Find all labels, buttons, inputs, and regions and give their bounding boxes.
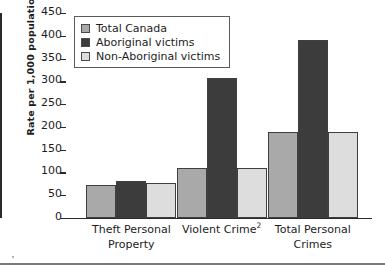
legend-item: Aboriginal victims <box>81 35 220 49</box>
legend-item: Non-Aboriginal victims <box>81 49 220 63</box>
legend-label: Total Canada <box>96 22 167 35</box>
tick-label: 300 <box>41 73 62 86</box>
bar <box>237 168 267 218</box>
tick-label: 150 <box>41 142 62 155</box>
bar <box>268 132 298 218</box>
tick-label: 200 <box>41 119 62 132</box>
tick-label: 450 <box>41 5 62 18</box>
legend-swatch-non-aboriginal-victims <box>81 52 90 61</box>
legend-label: Non-Aboriginal victims <box>96 50 220 63</box>
legend-swatch-aboriginal-victims <box>81 38 90 47</box>
bar-chart-figure: Rate per 1,000 population 05010015020025… <box>0 0 385 272</box>
category-label-line: Total Personal <box>243 223 383 238</box>
tick-label: 350 <box>41 51 62 64</box>
tick-label: 250 <box>41 96 62 109</box>
bar <box>86 185 116 218</box>
x-category-label-total-personal-crimes: Total PersonalCrimes <box>243 223 383 252</box>
bar <box>116 181 146 218</box>
bar <box>177 168 207 218</box>
category-label-line: Property <box>61 238 201 253</box>
tick-label: 100 <box>41 164 62 177</box>
y-axis-line <box>0 13 2 218</box>
chart-legend: Total Canada Aboriginal victims Non-Abor… <box>74 16 230 68</box>
tick-label: 0 <box>55 210 62 223</box>
tick-label: 50 <box>48 187 62 200</box>
bottom-divider-rule <box>0 263 385 265</box>
page-speck <box>12 256 14 258</box>
bar <box>146 183 176 218</box>
category-label-line: Crimes <box>243 238 383 253</box>
tick-label: 400 <box>41 28 62 41</box>
bar <box>328 132 358 218</box>
bar <box>298 40 328 218</box>
y-axis-title: Rate per 1,000 population <box>25 0 36 164</box>
bar <box>207 78 237 218</box>
legend-swatch-total-canada <box>81 24 90 33</box>
legend-label: Aboriginal victims <box>96 36 195 49</box>
legend-item: Total Canada <box>81 21 220 35</box>
bar-group-total-personal-crimes <box>268 13 358 218</box>
